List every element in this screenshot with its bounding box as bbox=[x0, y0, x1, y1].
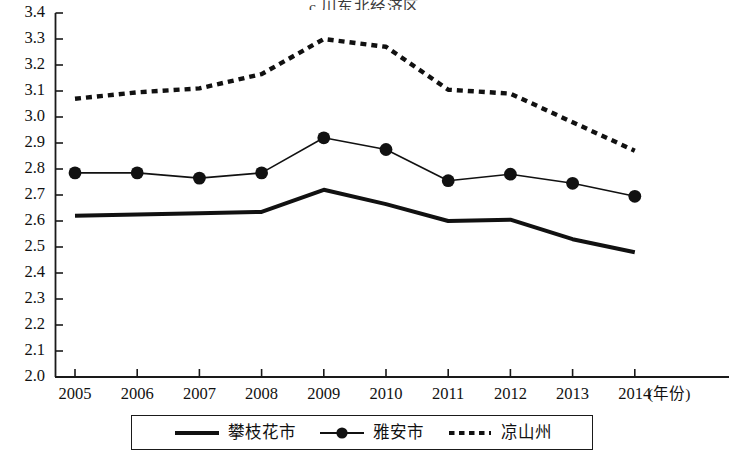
series-line-solid-thin bbox=[75, 138, 635, 197]
x-tick-label: 2005 bbox=[40, 385, 110, 403]
y-tick-label: 3.2 bbox=[5, 56, 45, 72]
y-axis-ticks bbox=[56, 13, 64, 377]
y-tick-label: 2.4 bbox=[5, 264, 45, 280]
y-tick-label: 2.0 bbox=[5, 368, 45, 384]
x-tick-label: 2011 bbox=[413, 385, 483, 403]
x-tick-label: 2007 bbox=[164, 385, 234, 403]
x-tick-label: 2006 bbox=[102, 385, 172, 403]
y-tick-label: 3.1 bbox=[5, 82, 45, 98]
solid-thick-line-swatch bbox=[173, 426, 221, 440]
x-tick-label: 2008 bbox=[227, 385, 297, 403]
chart-container: c 川东北经济区 3.43.33.23.13.02.92.82.72.62.52… bbox=[0, 0, 729, 453]
data-point-marker bbox=[442, 174, 455, 187]
y-tick-label: 3.3 bbox=[5, 30, 45, 46]
series-line-dotted bbox=[75, 39, 635, 151]
y-tick-label: 3.4 bbox=[5, 4, 45, 20]
legend-item-liangshan: 凉山州 bbox=[446, 424, 552, 442]
data-point-marker bbox=[131, 167, 144, 180]
dotted-line-swatch bbox=[446, 426, 494, 440]
legend-label-yaan: 雅安市 bbox=[373, 424, 424, 442]
x-axis-ticks bbox=[75, 369, 635, 377]
legend-item-yaan: 雅安市 bbox=[318, 424, 424, 442]
data-point-marker bbox=[380, 143, 393, 156]
y-tick-label: 2.9 bbox=[5, 134, 45, 150]
y-tick-label: 2.8 bbox=[5, 160, 45, 176]
x-axis-unit-label: (年份) bbox=[648, 385, 690, 403]
legend-item-panzhihua: 攀枝花市 bbox=[173, 424, 296, 442]
y-tick-label: 2.3 bbox=[5, 290, 45, 306]
y-tick-label: 2.7 bbox=[5, 186, 45, 202]
data-point-marker bbox=[566, 177, 579, 190]
data-series-layer bbox=[69, 39, 642, 252]
chart-legend: 攀枝花市 雅安市 凉山州 bbox=[131, 415, 593, 450]
x-tick-label: 2012 bbox=[475, 385, 545, 403]
data-point-marker bbox=[317, 131, 330, 144]
y-tick-label: 2.2 bbox=[5, 316, 45, 332]
data-point-marker bbox=[255, 167, 268, 180]
x-tick-label: 2010 bbox=[351, 385, 421, 403]
y-tick-label: 2.1 bbox=[5, 342, 45, 358]
circle-marker-line-swatch bbox=[318, 426, 366, 440]
y-tick-label: 2.5 bbox=[5, 238, 45, 254]
x-tick-label: 2013 bbox=[538, 385, 608, 403]
data-point-marker bbox=[504, 168, 517, 181]
data-point-marker bbox=[193, 172, 206, 185]
legend-label-liangshan: 凉山州 bbox=[501, 424, 552, 442]
y-tick-label: 3.0 bbox=[5, 108, 45, 124]
legend-label-panzhihua: 攀枝花市 bbox=[228, 424, 296, 442]
data-point-marker bbox=[628, 190, 641, 203]
y-tick-label: 2.6 bbox=[5, 212, 45, 228]
series-line-solid-thick bbox=[75, 190, 635, 252]
x-tick-label: 2009 bbox=[289, 385, 359, 403]
data-point-marker bbox=[69, 167, 82, 180]
